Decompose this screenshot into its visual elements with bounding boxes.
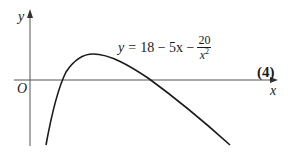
equation-terms: 18 − 5x − xyxy=(140,40,194,56)
curve-y-equals-18-minus-5x-minus-20-over-x-squared xyxy=(46,54,230,145)
y-axis-label: y xyxy=(18,10,24,24)
question-marks: (4) xyxy=(257,64,275,81)
fraction-denominator-power: 2 xyxy=(205,47,209,56)
graph-canvas xyxy=(0,0,288,157)
y-axis-arrowhead xyxy=(27,9,33,18)
equation-equals: = xyxy=(128,40,136,56)
x-axis-label: x xyxy=(270,84,276,98)
fraction-numerator: 20 xyxy=(197,34,211,48)
equation-fraction: 20 x2 xyxy=(197,34,211,61)
equation-lhs: y xyxy=(118,40,124,56)
fraction-denominator: x2 xyxy=(200,48,209,62)
curve-equation: y = 18 − 5x − 20 x2 xyxy=(118,34,211,61)
origin-label: O xyxy=(17,82,27,96)
